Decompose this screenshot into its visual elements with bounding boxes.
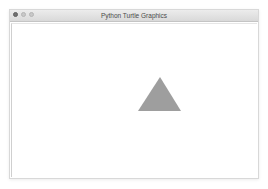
title-bar[interactable]: Python Turtle Graphics [10,10,258,22]
turtle-triangle [138,77,181,111]
turtle-window: Python Turtle Graphics [9,9,259,179]
canvas-svg [12,24,260,180]
drawing-canvas[interactable] [11,23,257,177]
window-title: Python Turtle Graphics [10,11,258,20]
